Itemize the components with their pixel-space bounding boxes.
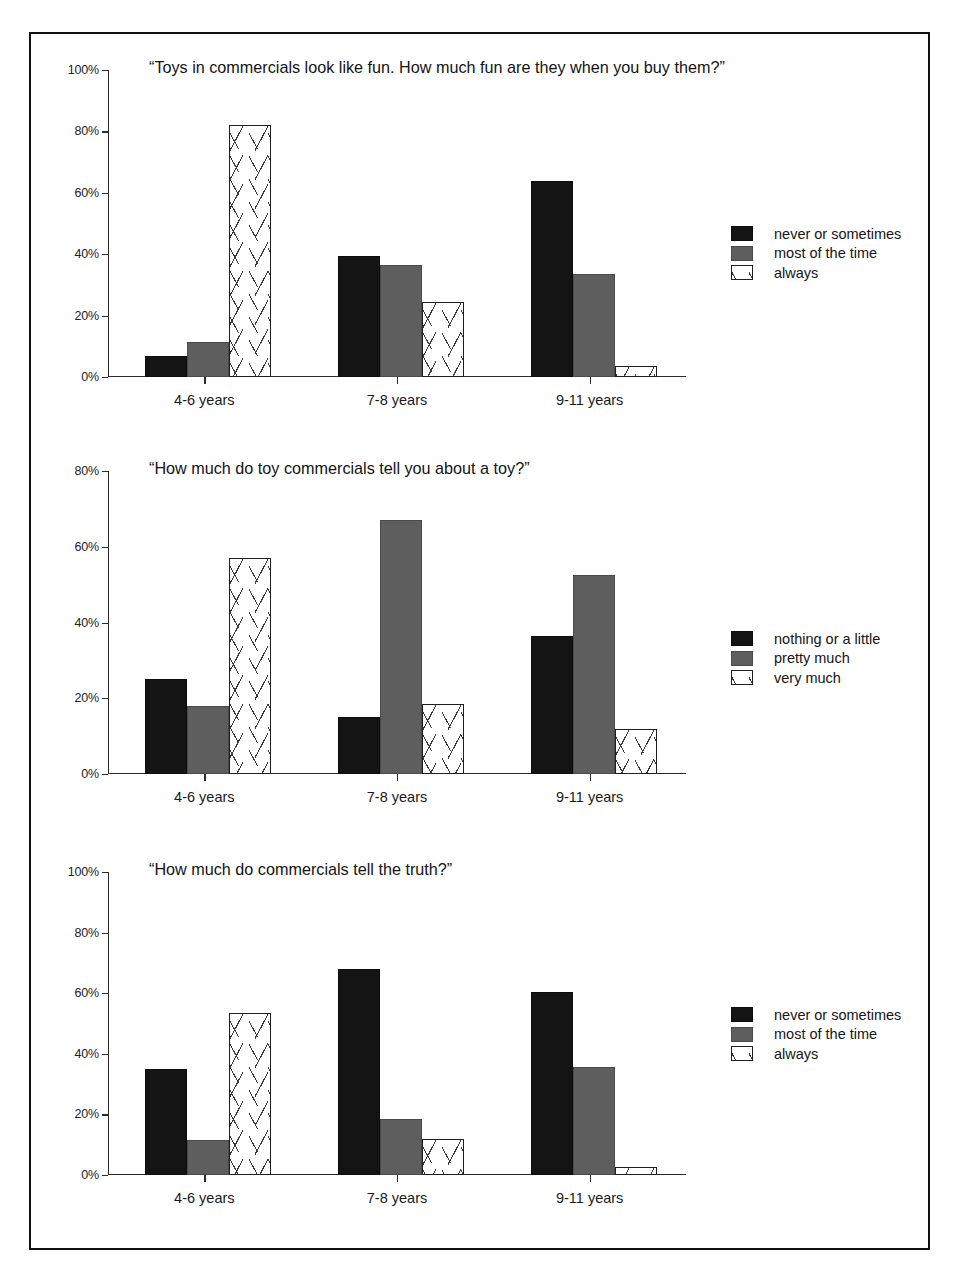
y-axis-line <box>108 70 109 377</box>
legend-item: always <box>731 1044 901 1064</box>
x-axis-category-label: 7-8 years <box>367 789 427 805</box>
legend-swatch-icon <box>731 246 753 261</box>
y-axis-tick-label: 40% <box>75 616 108 630</box>
legend-item: pretty much <box>731 649 880 669</box>
bar <box>615 729 657 774</box>
bar <box>573 575 615 774</box>
bar <box>615 1167 657 1175</box>
y-axis-tick-label: 60% <box>75 540 108 554</box>
bar <box>573 1067 615 1175</box>
plot-area: 0%20%40%60%80%100%4-6 years7-8 years9-11… <box>108 70 686 377</box>
bar <box>338 969 380 1175</box>
x-axis-tick-mark <box>590 774 591 781</box>
y-axis-tick-label: 80% <box>75 464 108 478</box>
legend-swatch-icon <box>731 265 753 280</box>
legend-item-label: always <box>774 265 818 281</box>
bar <box>187 342 229 377</box>
x-axis-tick-mark <box>204 377 205 384</box>
y-axis-tick-label: 80% <box>75 926 108 940</box>
legend-item: never or sometimes <box>731 224 901 244</box>
bar <box>338 256 380 377</box>
legend-item-label: never or sometimes <box>774 226 901 242</box>
y-axis-tick-label: 20% <box>75 1107 108 1121</box>
legend-swatch-icon <box>731 226 753 241</box>
x-axis-category-label: 9-11 years <box>556 392 623 408</box>
x-axis-tick-mark <box>397 377 398 384</box>
bar <box>531 181 573 377</box>
chart-legend: never or sometimesmost of the timealways <box>731 224 901 283</box>
legend-item-label: nothing or a little <box>774 631 880 647</box>
legend-item: most of the time <box>731 244 901 264</box>
x-axis-tick-mark <box>590 377 591 384</box>
bar <box>531 992 573 1175</box>
bar <box>145 679 187 774</box>
legend-item: always <box>731 263 901 283</box>
y-axis-tick-label: 20% <box>75 309 108 323</box>
x-axis-category-label: 4-6 years <box>174 1190 234 1206</box>
x-axis-tick-mark <box>204 1175 205 1182</box>
x-axis-category-label: 7-8 years <box>367 392 427 408</box>
legend-swatch-icon <box>731 670 753 685</box>
y-axis-tick-label: 20% <box>75 691 108 705</box>
legend-swatch-icon <box>731 651 753 666</box>
legend-item-label: most of the time <box>774 1026 877 1042</box>
y-axis-tick-label: 60% <box>75 986 108 1000</box>
page-frame: “Toys in commercials look like fun. How … <box>29 32 930 1250</box>
bar <box>380 1119 422 1175</box>
bar <box>145 1069 187 1175</box>
x-axis-category-label: 9-11 years <box>556 789 623 805</box>
chart-legend: nothing or a littlepretty muchvery much <box>731 629 880 688</box>
bar <box>229 125 271 377</box>
bar <box>615 366 657 377</box>
chart-legend: never or sometimesmost of the timealways <box>731 1005 901 1064</box>
legend-swatch-icon <box>731 631 753 646</box>
bar <box>422 704 464 774</box>
legend-item: most of the time <box>731 1025 901 1045</box>
x-axis-tick-mark <box>204 774 205 781</box>
legend-item-label: pretty much <box>774 650 850 666</box>
bar <box>380 520 422 774</box>
legend-item-label: very much <box>774 670 841 686</box>
y-axis-tick-label: 40% <box>75 247 108 261</box>
bar <box>187 1140 229 1175</box>
x-axis-category-label: 9-11 years <box>556 1190 623 1206</box>
bar <box>229 558 271 774</box>
bar <box>422 302 464 377</box>
plot-area: 0%20%40%60%80%4-6 years7-8 years9-11 yea… <box>108 471 686 774</box>
y-axis-tick-label: 80% <box>75 124 108 138</box>
y-axis-line <box>108 471 109 774</box>
bar <box>229 1013 271 1175</box>
legend-item: nothing or a little <box>731 629 880 649</box>
bar <box>531 636 573 774</box>
plot-area: 0%20%40%60%80%100%4-6 years7-8 years9-11… <box>108 872 686 1175</box>
y-axis-tick-label: 100% <box>68 63 108 77</box>
bar <box>145 356 187 377</box>
bar <box>338 717 380 774</box>
x-axis-tick-mark <box>397 774 398 781</box>
legend-item: never or sometimes <box>731 1005 901 1025</box>
legend-swatch-icon <box>731 1046 753 1061</box>
bar <box>380 265 422 377</box>
x-axis-tick-mark <box>590 1175 591 1182</box>
y-axis-tick-label: 0% <box>81 370 108 384</box>
bar <box>573 274 615 377</box>
x-axis-category-label: 4-6 years <box>174 789 234 805</box>
y-axis-tick-label: 40% <box>75 1047 108 1061</box>
y-axis-tick-label: 100% <box>68 865 108 879</box>
bar <box>422 1139 464 1175</box>
x-axis-tick-mark <box>397 1175 398 1182</box>
y-axis-tick-label: 0% <box>81 767 108 781</box>
bar <box>187 706 229 774</box>
y-axis-tick-label: 0% <box>81 1168 108 1182</box>
x-axis-category-label: 7-8 years <box>367 1190 427 1206</box>
legend-swatch-icon <box>731 1027 753 1042</box>
x-axis-category-label: 4-6 years <box>174 392 234 408</box>
legend-item-label: always <box>774 1046 818 1062</box>
y-axis-line <box>108 872 109 1175</box>
y-axis-tick-label: 60% <box>75 186 108 200</box>
legend-item-label: never or sometimes <box>774 1007 901 1023</box>
legend-item-label: most of the time <box>774 245 877 261</box>
legend-swatch-icon <box>731 1007 753 1022</box>
legend-item: very much <box>731 668 880 688</box>
